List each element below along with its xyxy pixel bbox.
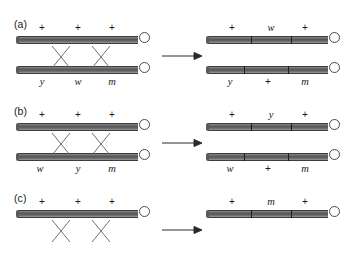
allele-label: + xyxy=(39,197,45,207)
allele-label: + xyxy=(302,23,308,33)
chromatid-gap xyxy=(18,131,150,153)
chromatid-bar xyxy=(208,123,328,131)
allele-label: y xyxy=(269,110,274,121)
panel-b-after-bottom-chromatid: w + m xyxy=(208,153,340,161)
panel-c-label: (c) xyxy=(14,192,27,204)
panel-a-after-bottom-chromatid: y + m xyxy=(208,66,340,74)
segment-boundary-tick xyxy=(251,123,252,131)
allele-label: m xyxy=(267,197,275,208)
chromatid-bar xyxy=(208,36,328,44)
allele-label: w xyxy=(226,164,233,175)
allele-label: m xyxy=(301,164,309,175)
chromatid-bar xyxy=(208,66,328,74)
segment-boundary-tick xyxy=(291,36,292,44)
crossover-figure: (a) + + + y w m xyxy=(0,0,353,266)
panel-a-before-bottom-chromatid: y w m xyxy=(18,66,150,74)
panel-a-before: + + + y w m xyxy=(18,36,150,74)
telomere-knob-icon xyxy=(329,206,340,217)
allele-label: w xyxy=(36,164,43,175)
allele-label: + xyxy=(75,110,81,120)
panel-c-before-top-chromatid: + + + xyxy=(18,210,150,218)
chromatid-gap xyxy=(208,44,340,66)
telomere-knob-icon xyxy=(139,119,150,130)
allele-label: y xyxy=(40,77,45,88)
allele-label: + xyxy=(265,164,271,174)
allele-label: m xyxy=(108,77,116,88)
chromatid-bar xyxy=(18,66,138,74)
chromatid-bar xyxy=(208,210,328,218)
chromatid-bar xyxy=(18,123,138,131)
segment-boundary-tick xyxy=(251,36,252,44)
segment-boundary-tick xyxy=(291,210,292,218)
panel-b-after: + y + w + m xyxy=(208,123,340,161)
allele-label: + xyxy=(39,110,45,120)
chromatid-bar xyxy=(208,153,328,161)
crossover-marks xyxy=(18,216,150,246)
telomere-knob-icon xyxy=(329,62,340,73)
segment-boundary-tick xyxy=(288,66,289,74)
allele-label: + xyxy=(302,110,308,120)
allele-label: + xyxy=(109,197,115,207)
panel-a-after-top-chromatid: + w + xyxy=(208,36,340,44)
panel-b-before-bottom-chromatid: w y m xyxy=(18,153,150,161)
allele-label: y xyxy=(228,77,233,88)
allele-label: + xyxy=(109,110,115,120)
panel-c-after-top-chromatid: + m + xyxy=(208,210,340,218)
allele-label: + xyxy=(229,197,235,207)
allele-label: + xyxy=(75,23,81,33)
chromatid-bar xyxy=(18,210,138,218)
panel-c-before: + + + xyxy=(18,210,150,218)
allele-label: w xyxy=(267,23,274,34)
allele-label: + xyxy=(265,77,271,87)
panel-a-label: (a) xyxy=(14,18,27,30)
panel-b-before: + + + w y m xyxy=(18,123,150,161)
panel-c-after: + m + xyxy=(208,210,340,218)
allele-label: + xyxy=(229,110,235,120)
telomere-knob-icon xyxy=(139,149,150,160)
segment-boundary-tick xyxy=(291,123,292,131)
panel-a-after: + w + y + m xyxy=(208,36,340,74)
segment-boundary-tick xyxy=(251,210,252,218)
transformation-arrow-icon xyxy=(162,137,202,149)
panel-a-before-top-chromatid: + + + xyxy=(18,36,150,44)
allele-label: + xyxy=(109,23,115,33)
telomere-knob-icon xyxy=(329,119,340,130)
allele-label: + xyxy=(75,197,81,207)
allele-label: m xyxy=(108,164,116,175)
segment-boundary-tick xyxy=(244,66,245,74)
chromatid-bar xyxy=(18,36,138,44)
segment-boundary-tick xyxy=(288,153,289,161)
allele-label: m xyxy=(301,77,309,88)
telomere-knob-icon xyxy=(139,62,150,73)
telomere-knob-icon xyxy=(329,32,340,43)
transformation-arrow-icon xyxy=(162,224,202,236)
allele-label: + xyxy=(39,23,45,33)
telomere-knob-icon xyxy=(139,32,150,43)
allele-label: + xyxy=(302,197,308,207)
allele-label: + xyxy=(229,23,235,33)
chromatid-gap xyxy=(18,44,150,66)
allele-label: y xyxy=(76,164,81,175)
panel-b-label: (b) xyxy=(14,105,27,117)
telomere-knob-icon xyxy=(329,149,340,160)
chromatid-gap xyxy=(208,131,340,153)
telomere-knob-icon xyxy=(139,206,150,217)
panel-b-after-top-chromatid: + y + xyxy=(208,123,340,131)
segment-boundary-tick xyxy=(244,153,245,161)
allele-label: w xyxy=(74,77,81,88)
chromatid-bar xyxy=(18,153,138,161)
transformation-arrow-icon xyxy=(162,50,202,62)
panel-b-before-top-chromatid: + + + xyxy=(18,123,150,131)
